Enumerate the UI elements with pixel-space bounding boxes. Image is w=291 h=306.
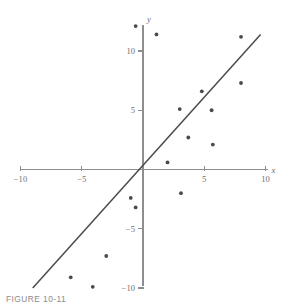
- y-tick-label: 5: [131, 105, 135, 115]
- x-axis-name: x: [271, 165, 276, 175]
- figure-container: −10−5510105−5−10xy FIGURE 10-11: [0, 0, 291, 306]
- data-point: [129, 196, 133, 200]
- x-tick-label: 5: [202, 174, 206, 184]
- data-point: [200, 89, 204, 93]
- regression-line: [33, 34, 261, 288]
- data-point: [239, 35, 243, 39]
- y-tick-label: −5: [126, 224, 135, 234]
- data-point: [239, 81, 243, 85]
- regression-line-group: [33, 34, 261, 288]
- data-point: [155, 33, 159, 37]
- data-point: [134, 24, 138, 28]
- axes-group: [21, 25, 268, 288]
- data-point: [134, 206, 138, 210]
- data-point: [211, 143, 215, 147]
- axis-labels-group: −10−5510105−5−10xy: [14, 14, 276, 293]
- data-point: [91, 285, 95, 289]
- data-point: [69, 275, 73, 279]
- scatter-plot: −10−5510105−5−10xy: [0, 0, 291, 306]
- y-tick-label: −10: [122, 283, 135, 293]
- data-point: [178, 107, 182, 111]
- x-tick-label: −10: [14, 174, 27, 184]
- data-point: [166, 160, 170, 164]
- y-tick-label: 10: [126, 46, 135, 56]
- x-tick-label: −5: [77, 174, 86, 184]
- data-points-group: [69, 24, 243, 289]
- figure-caption: FIGURE 10-11: [6, 294, 66, 306]
- data-point: [104, 254, 108, 258]
- data-point: [179, 191, 183, 195]
- y-axis-name: y: [146, 14, 151, 24]
- data-point: [210, 108, 214, 112]
- data-point: [186, 136, 190, 140]
- x-tick-label: 10: [261, 174, 270, 184]
